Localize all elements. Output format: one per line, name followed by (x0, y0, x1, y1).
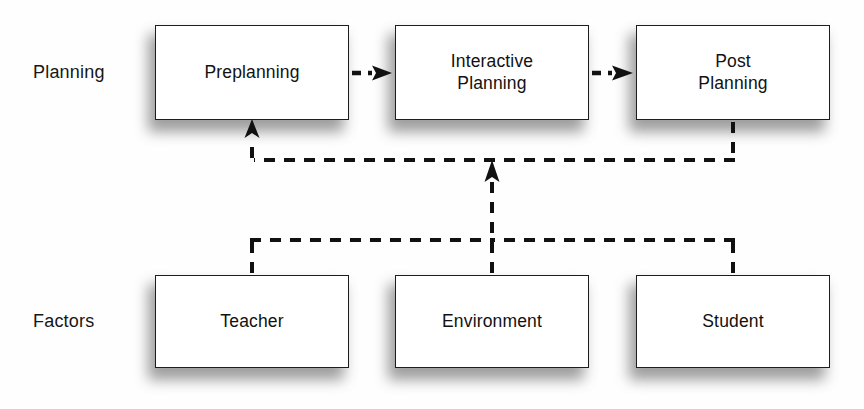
connector-student-to-bus (490, 240, 735, 273)
node-label-student: Student (698, 311, 767, 332)
node-preplanning[interactable]: Preplanning (155, 25, 349, 120)
node-environment[interactable]: Environment (395, 275, 589, 368)
connector-teacher-to-bus (250, 240, 494, 273)
diagram-canvas: Planning Factors Preplanning Interactive… (0, 0, 864, 409)
node-interactive-planning[interactable]: Interactive Planning (395, 25, 589, 120)
connector-environment-to-interactive (485, 160, 500, 273)
row-label-factors: Factors (33, 312, 94, 330)
node-label-interactive-planning: Interactive Planning (447, 51, 537, 94)
row-label-planning: Planning (33, 63, 105, 81)
node-label-environment: Environment (438, 311, 546, 332)
node-label-post-planning: Post Planning (694, 51, 771, 94)
node-post-planning[interactable]: Post Planning (636, 25, 830, 120)
node-label-preplanning: Preplanning (200, 62, 303, 83)
node-label-teacher: Teacher (216, 311, 287, 332)
connector-preplanning-to-interactive (352, 66, 392, 81)
node-student[interactable]: Student (636, 275, 830, 368)
connector-interactive-to-post (592, 66, 633, 81)
node-teacher[interactable]: Teacher (155, 275, 349, 368)
